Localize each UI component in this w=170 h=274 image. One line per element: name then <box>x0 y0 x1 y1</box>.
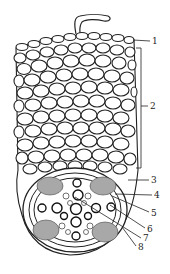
label-8: 8 <box>138 243 144 252</box>
label-2: 2 <box>150 102 156 111</box>
vascular-cylinder <box>23 168 127 252</box>
label-3: 3 <box>151 176 157 185</box>
label-5: 5 <box>151 209 157 218</box>
label-4: 4 <box>154 191 160 200</box>
label-1: 1 <box>152 37 158 46</box>
root-hair <box>75 15 110 35</box>
